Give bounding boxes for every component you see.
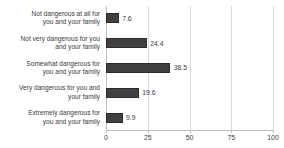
- bar-container[interactable]: 38.5: [106, 56, 187, 81]
- category-label-line: Somewhat dangerous for: [26, 60, 100, 68]
- category-label-line: your family: [68, 93, 100, 101]
- bar-container[interactable]: 7.6: [106, 6, 132, 31]
- bar-row: Not dangerous at all foryou and your fam…: [0, 6, 284, 31]
- bar-row: Somewhat dangerous foryou and your famil…: [0, 56, 284, 81]
- category-label-line: and your family: [55, 43, 100, 51]
- category-label: Extremely dangerous foryou and your fami…: [0, 105, 100, 130]
- bar[interactable]: [106, 13, 119, 23]
- bar-value-label: 19.6: [142, 89, 155, 96]
- bar-row: Very dangerous for you andyour family19.…: [0, 80, 284, 105]
- category-label-line: Not very dangerous for you: [20, 35, 100, 43]
- bar-container[interactable]: 24.4: [106, 31, 163, 56]
- bar-container[interactable]: 9.9: [106, 105, 135, 130]
- tick-mark-75: [231, 130, 232, 133]
- category-label: Very dangerous for you andyour family: [0, 80, 100, 105]
- bar-chart: Not dangerous at all foryou and your fam…: [0, 0, 284, 148]
- tick-mark-50: [190, 130, 191, 133]
- tick-mark-0: [106, 130, 107, 133]
- x-axis-tick-labels: 0255075100: [0, 134, 284, 146]
- bar-row: Not very dangerous for youand your famil…: [0, 31, 284, 56]
- tick-mark-100: [273, 130, 274, 133]
- bar[interactable]: [106, 38, 147, 48]
- x-tick-label: 100: [267, 134, 278, 141]
- category-label-line: you and your family: [43, 118, 100, 126]
- bar-value-label: 7.6: [122, 15, 131, 22]
- category-label-line: Not dangerous at all for: [31, 10, 100, 18]
- category-label-line: Extremely dangerous for: [28, 109, 100, 117]
- bar[interactable]: [106, 113, 123, 123]
- bar-value-label: 9.9: [126, 114, 135, 121]
- category-label: Not very dangerous for youand your famil…: [0, 31, 100, 56]
- bar-value-label: 38.5: [174, 64, 187, 71]
- category-label-line: Very dangerous for you and: [19, 84, 100, 92]
- x-tick-label: 75: [227, 134, 235, 141]
- x-tick-label: 50: [186, 134, 194, 141]
- x-tick-label: 0: [104, 134, 108, 141]
- tick-mark-25: [148, 130, 149, 133]
- bar[interactable]: [106, 88, 139, 98]
- x-tick-label: 25: [144, 134, 152, 141]
- bar-container[interactable]: 19.6: [106, 80, 155, 105]
- bar[interactable]: [106, 63, 170, 73]
- category-label-line: you and your family: [43, 18, 100, 26]
- category-label-line: you and your family: [43, 68, 100, 76]
- category-label: Somewhat dangerous foryou and your famil…: [0, 56, 100, 81]
- category-label: Not dangerous at all foryou and your fam…: [0, 6, 100, 31]
- bar-rows: Not dangerous at all foryou and your fam…: [0, 6, 284, 130]
- bar-value-label: 24.4: [150, 40, 163, 47]
- bar-row: Extremely dangerous foryou and your fami…: [0, 105, 284, 130]
